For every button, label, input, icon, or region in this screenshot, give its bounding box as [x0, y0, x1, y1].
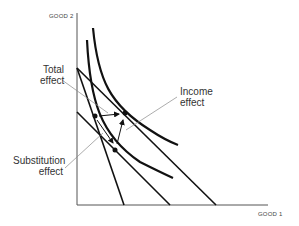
total-line1: Total	[40, 64, 64, 75]
income-line1: Income	[180, 86, 213, 97]
substitution-line1: Substitution	[13, 155, 63, 166]
substitution-effect-label: Substitution effect	[13, 155, 63, 177]
diagram-canvas	[0, 0, 299, 226]
income-effect-arrow	[117, 120, 123, 144]
point-original	[93, 114, 98, 119]
total-line2: effect	[40, 75, 64, 86]
income-line2: effect	[180, 97, 213, 108]
substitution-line2: effect	[13, 166, 63, 177]
total-effect-label: Total effect	[40, 64, 64, 86]
total-effect-arrow	[99, 114, 119, 116]
point-substitution	[113, 148, 118, 153]
income-leader	[126, 97, 177, 130]
budget-line-compensated	[77, 112, 170, 205]
substitution-leader	[65, 133, 103, 168]
x-axis-label: GOOD 1	[258, 211, 283, 217]
y-axis-label: GOOD 2	[49, 13, 74, 19]
total-leader	[62, 80, 108, 113]
point-final	[123, 111, 128, 116]
income-effect-label: Income effect	[180, 86, 213, 108]
indifference-curve-low	[87, 40, 173, 178]
